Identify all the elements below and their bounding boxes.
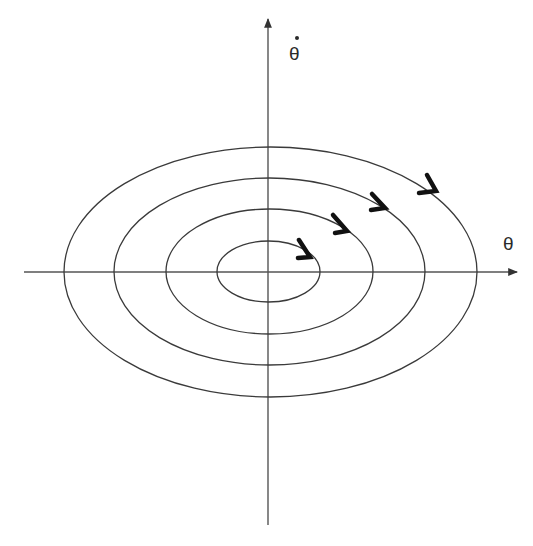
y-axis-label: θ bbox=[289, 44, 300, 63]
x-axis-label: θ bbox=[503, 234, 514, 253]
theta-dot-marker-icon bbox=[295, 36, 299, 40]
clockwise-arrow-icon bbox=[333, 215, 347, 233]
clockwise-arrow-icon bbox=[419, 175, 436, 193]
phase-portrait-diagram bbox=[0, 0, 533, 546]
clockwise-arrow-icon bbox=[298, 240, 310, 258]
